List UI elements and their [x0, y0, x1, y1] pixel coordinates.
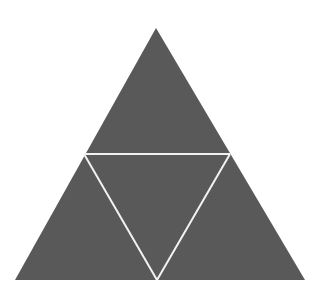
triangle-diagram [0, 0, 323, 294]
